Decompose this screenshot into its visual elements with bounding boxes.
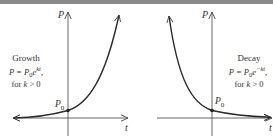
growth-x-axis-label: t — [125, 122, 128, 133]
growth-intercept-label: P0 — [54, 99, 65, 112]
growth-title: Growth — [12, 53, 40, 63]
growth-curve — [14, 15, 119, 118]
growth-y-axis-label: P — [57, 9, 64, 20]
decay-graph: P t P0 Decay P = P0e−kt, for k > 0 — [157, 9, 272, 136]
growth-graph: P t P0 Growth P = P0ekt, for k > 0 — [8, 9, 128, 136]
decay-condition: for k > 0 — [234, 79, 263, 89]
growth-formula: P = P0ekt, — [8, 65, 43, 78]
decay-intercept-label: P0 — [214, 96, 225, 109]
exponential-diagrams: P t P0 Growth P = P0ekt, for k > 0 P t P… — [0, 0, 273, 139]
decay-x-axis-label: t — [269, 122, 272, 133]
decay-y-axis-label: P — [201, 9, 208, 20]
growth-condition: for k > 0 — [11, 79, 40, 89]
growth-intercept-point — [66, 109, 70, 113]
decay-formula: P = P0e−kt, — [228, 65, 267, 78]
decay-intercept-point — [210, 109, 214, 113]
decay-title: Decay — [238, 53, 261, 63]
